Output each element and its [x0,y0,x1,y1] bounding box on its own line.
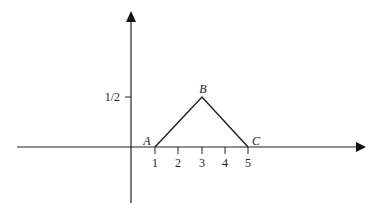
x-tick-label-4: 4 [222,156,228,170]
x-axis-arrow-icon [356,142,366,152]
x-tick-label-1: 1 [152,156,158,170]
y-axis-arrow-icon [126,11,136,22]
x-tick-label-2: 2 [175,156,181,170]
x-ticks [155,147,248,154]
y-tick-label-half: 1/2 [105,90,120,104]
point-label-c: C [252,134,261,148]
x-tick-label-5: 5 [245,156,251,170]
triangle-function-chart: 1 2 3 4 5 1/2 A B C [0,0,381,214]
point-label-b: B [199,82,207,96]
triangle-series [155,97,248,147]
x-tick-label-3: 3 [199,156,205,170]
point-label-a: A [142,134,151,148]
chart-canvas: 1 2 3 4 5 1/2 A B C [0,0,381,214]
